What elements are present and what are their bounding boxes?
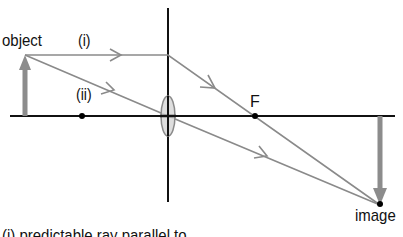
- caption-text: (i) predictable ray parallel to: [2, 226, 187, 237]
- object-arrow-shaft: [23, 66, 28, 116]
- ray-i-label: (i): [78, 32, 91, 50]
- ray-ii: [25, 55, 380, 205]
- ray-ii-refracted-direction-arrow-icon: [254, 146, 267, 158]
- image-label: image: [355, 206, 396, 226]
- image-arrow-shaft: [378, 116, 383, 192]
- object-label: object: [2, 31, 42, 51]
- ray-ii-label: (ii): [76, 86, 92, 104]
- focal-point-label: F: [250, 93, 260, 111]
- diagram-svg: [0, 0, 403, 237]
- right-focal-point-f: [252, 113, 258, 119]
- ray-diagram: object (i) (ii) F image (i) predictable …: [0, 0, 403, 237]
- left-focal-point: [79, 113, 85, 119]
